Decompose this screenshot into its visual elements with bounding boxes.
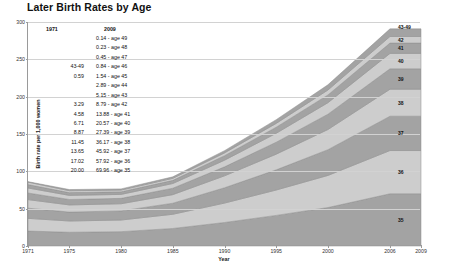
cell-1971: 0.59 — [36, 73, 84, 79]
series-label-age-39: 39 — [398, 76, 404, 82]
table-row: 3.298.79 - age 42 — [36, 101, 171, 110]
table-header-row: 1971 2009 — [36, 26, 171, 35]
cell-2009: 0.84 - age 46 — [96, 63, 127, 69]
cell-1971: 20.00 — [36, 167, 84, 173]
cell-1971: 17.02 — [36, 158, 84, 164]
grid-line — [28, 209, 420, 210]
cell-2009: 1.54 - age 45 — [96, 73, 127, 79]
x-axis-tick-label: 2000 — [322, 248, 334, 254]
cell-2009: 0.14 - age 49 — [96, 35, 127, 41]
series-label-age-38: 38 — [398, 100, 404, 106]
series-label-age-35: 35 — [398, 217, 404, 223]
table-row: 17.0257.92 - age 36 — [36, 158, 171, 167]
column-header-1971: 1971 — [46, 26, 58, 32]
y-axis-tick-label: 100 — [16, 168, 25, 174]
cell-2009: 8.79 - age 42 — [96, 101, 127, 107]
cell-2009: 2.89 - age 44 — [96, 82, 127, 88]
column-header-2009: 2009 — [104, 26, 116, 32]
y-axis-tick-label: 150 — [16, 131, 25, 137]
chart-canvas: Later Birth Rates by Age Birth rate per … — [0, 0, 455, 277]
table-row: 43-490.84 - age 46 — [36, 63, 171, 72]
table-row: 0.591.54 - age 45 — [36, 73, 171, 82]
table-row: 0.14 - age 49 — [36, 35, 171, 44]
cell-2009: 57.92 - age 36 — [96, 158, 130, 164]
table-row: 0.45 - age 47 — [36, 54, 171, 63]
cell-1971: 8.87 — [36, 129, 84, 135]
x-axis-label: Year — [218, 256, 229, 262]
cell-1971: 6.71 — [36, 120, 84, 126]
comparison-table: 1971 2009 0.14 - age 490.23 - age 480.45… — [36, 26, 171, 177]
table-row: 2.89 - age 44 — [36, 82, 171, 91]
table-row: 6.7120.57 - age 40 — [36, 120, 171, 129]
series-label-age-42: 42 — [398, 37, 404, 43]
table-row: 20.0069.96 - age 35 — [36, 167, 171, 176]
y-axis-tick-mark — [26, 134, 28, 135]
table-row: 4.5813.88 - age 41 — [36, 111, 171, 120]
x-axis-tick-label: 1990 — [219, 248, 231, 254]
cell-2009: 13.88 - age 41 — [96, 111, 130, 117]
table-row: 0.23 - age 48 — [36, 44, 171, 53]
x-axis-tick-label: 2009 — [415, 248, 427, 254]
x-axis-tick-label: 1975 — [64, 248, 76, 254]
cell-2009: 45.92 - age 37 — [96, 148, 130, 154]
cell-2009: 69.96 - age 35 — [96, 167, 130, 173]
x-axis-tick-label: 1985 — [167, 248, 179, 254]
y-axis-tick-mark — [26, 209, 28, 210]
cell-2009: 36.17 - age 38 — [96, 139, 130, 145]
y-axis-tick-label: 200 — [16, 94, 25, 100]
y-axis-tick-label: 250 — [16, 56, 25, 62]
cell-2009: 0.23 - age 48 — [96, 44, 127, 50]
x-axis-tick-label: 1971 — [22, 248, 34, 254]
y-axis-tick-label: 50 — [19, 206, 25, 212]
cell-2009: 5.15 - age 43 — [96, 92, 127, 98]
y-axis-tick-label: 300 — [16, 19, 25, 25]
table-body: 0.14 - age 490.23 - age 480.45 - age 474… — [36, 35, 171, 177]
cell-1971: 4.58 — [36, 111, 84, 117]
cell-1971: 3.29 — [36, 101, 84, 107]
cell-1971: 13.65 — [36, 148, 84, 154]
table-row: 13.6545.92 - age 37 — [36, 148, 171, 157]
y-axis-tick-mark — [26, 59, 28, 60]
table-row: 11.4536.17 - age 38 — [36, 139, 171, 148]
cell-2009: 0.45 - age 47 — [96, 54, 127, 60]
x-axis-tick-label: 1995 — [270, 248, 282, 254]
x-axis-tick-label: 2006 — [384, 248, 396, 254]
cell-1971: 43-49 — [36, 63, 84, 69]
series-label-age-43-49: 43-49 — [398, 24, 411, 30]
table-row: 5.15 - age 43 — [36, 92, 171, 101]
series-label-age-36: 36 — [398, 169, 404, 175]
series-label-age-40: 40 — [398, 58, 404, 64]
chart-title: Later Birth Rates by Age — [27, 1, 152, 13]
y-axis-tick-mark — [26, 22, 28, 23]
grid-line — [28, 22, 420, 23]
cell-2009: 20.57 - age 40 — [96, 120, 130, 126]
y-axis-tick-mark — [26, 171, 28, 172]
x-axis-tick-label: 1980 — [115, 248, 127, 254]
cell-1971: 11.45 — [36, 139, 84, 145]
series-label-age-37: 37 — [398, 130, 404, 136]
cell-2009: 27.39 - age 39 — [96, 129, 130, 135]
series-label-age-41: 41 — [398, 45, 404, 51]
table-row: 8.8727.39 - age 39 — [36, 129, 171, 138]
y-axis-tick-mark — [26, 97, 28, 98]
